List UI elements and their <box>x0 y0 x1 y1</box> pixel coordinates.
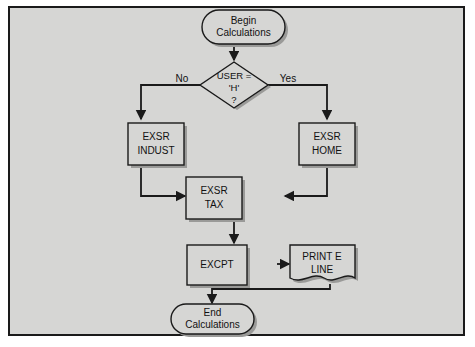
node-printline-line1: PRINT E <box>302 251 342 262</box>
edge-label-yes: Yes <box>280 73 296 84</box>
node-begin-line2: Calculations <box>216 27 270 38</box>
node-end-line2: Calculations <box>185 319 239 330</box>
node-excpt-line1: EXCPT <box>200 259 233 270</box>
node-begin-calculations: Begin Calculations <box>202 10 288 47</box>
connector-no-branch <box>141 85 200 119</box>
node-decision-line3: ? <box>231 94 236 105</box>
node-printline-line2: LINE <box>311 264 334 275</box>
node-print-e-line: PRINT E LINE <box>290 245 358 283</box>
node-end-calculations: End Calculations <box>171 304 257 337</box>
flowchart-canvas: Begin Calculations USER = 'H' ? No Yes E… <box>0 0 475 347</box>
flowchart-page: Begin Calculations USER = 'H' ? No Yes E… <box>0 0 475 347</box>
node-decision-line1: USER = <box>217 70 252 81</box>
node-decision-user-h: USER = 'H' ? <box>200 62 271 110</box>
node-begin-line1: Begin <box>231 15 257 26</box>
node-tax-line2: TAX <box>205 199 224 210</box>
node-excpt: EXCPT <box>187 245 250 288</box>
node-indust-line1: EXSR <box>142 131 169 142</box>
node-home-line2: HOME <box>312 145 342 156</box>
node-indust-line2: INDUST <box>137 145 174 156</box>
node-decision-line2: 'H' <box>229 82 240 93</box>
connector-home-to-tax <box>285 165 327 196</box>
node-exsr-indust: EXSR INDUST <box>128 123 187 168</box>
node-end-line1: End <box>204 307 222 318</box>
node-tax-line1: EXSR <box>200 185 227 196</box>
node-exsr-tax: EXSR TAX <box>186 177 245 222</box>
connector-yes-branch <box>268 85 327 119</box>
connector-indust-to-tax <box>141 165 185 196</box>
node-exsr-home: EXSR HOME <box>299 123 358 168</box>
node-home-line1: EXSR <box>313 131 340 142</box>
edge-label-no: No <box>176 73 189 84</box>
